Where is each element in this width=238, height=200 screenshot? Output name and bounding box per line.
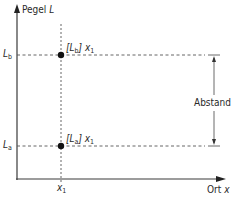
la-point-close: ] x xyxy=(78,133,90,144)
lb-point-label: [Lb] x1 xyxy=(66,42,94,57)
y-axis-label: Pegel L xyxy=(22,4,54,16)
lb-subscript: b xyxy=(8,53,12,61)
la-point-open: [L xyxy=(66,133,75,144)
lb-point-close: ] x xyxy=(79,42,91,53)
la-subscript: a xyxy=(8,144,12,152)
lb-point-open: [L xyxy=(66,42,75,53)
la-point-label: [La] x1 xyxy=(66,133,94,148)
y-axis-arrow-icon xyxy=(14,4,20,13)
lb-point-x-sub: 1 xyxy=(90,47,94,55)
x-axis-arrow-icon xyxy=(216,176,226,182)
x-axis-label-text: Ort xyxy=(207,184,221,195)
y-axis-symbol: L xyxy=(49,4,54,15)
x1-tick-label: x1 xyxy=(57,182,66,197)
la-point xyxy=(58,143,64,149)
y-axis-label-text: Pegel xyxy=(22,4,46,15)
x-axis-symbol: x xyxy=(224,184,229,195)
distance-label: Abstand xyxy=(193,97,232,109)
lb-point xyxy=(58,52,64,58)
lb-axis-label: Lb xyxy=(3,48,12,63)
la-axis-label: La xyxy=(3,139,12,154)
x1-subscript: 1 xyxy=(62,187,66,195)
distance-down-arrow-icon xyxy=(212,139,216,145)
la-point-x-sub: 1 xyxy=(90,138,94,146)
x-axis-label: Ort x xyxy=(207,184,230,196)
distance-up-arrow-icon xyxy=(212,56,216,62)
